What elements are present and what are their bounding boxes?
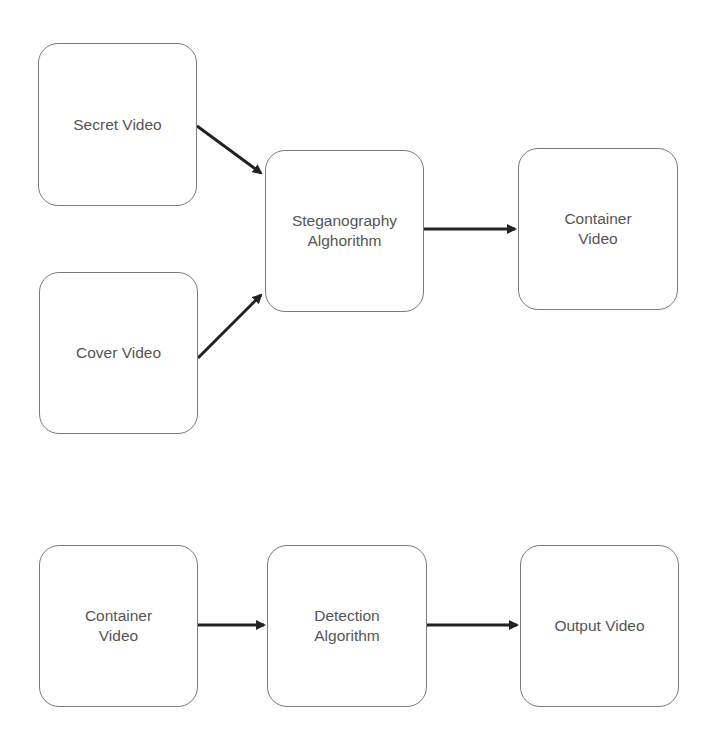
node-container-video-output: Container Video: [518, 148, 678, 310]
node-label: Secret Video: [73, 115, 161, 135]
arrow-cover-to-stego: [198, 295, 261, 358]
node-steganography-algorithm: Steganography Alghorithm: [265, 150, 424, 312]
node-label: Container Video: [564, 209, 631, 249]
node-label: Container Video: [85, 606, 152, 646]
arrow-secret-to-stego: [197, 126, 261, 173]
node-cover-video: Cover Video: [39, 272, 198, 434]
node-secret-video: Secret Video: [38, 43, 197, 206]
node-label: Cover Video: [76, 343, 161, 363]
node-label: Detection Algorithm: [314, 606, 379, 646]
node-label: Steganography Alghorithm: [292, 211, 397, 251]
node-output-video: Output Video: [520, 545, 679, 707]
node-label: Output Video: [554, 616, 644, 636]
node-container-video-input: Container Video: [39, 545, 198, 707]
node-detection-algorithm: Detection Algorithm: [267, 545, 427, 707]
